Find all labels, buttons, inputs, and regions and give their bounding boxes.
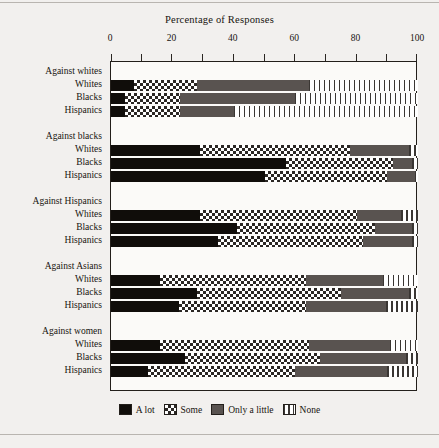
bar-segment-none bbox=[401, 210, 418, 221]
bar-segment-little bbox=[306, 301, 386, 312]
legend-item: Only a little bbox=[211, 404, 273, 415]
bar-segment-some bbox=[125, 106, 180, 117]
bars-container bbox=[111, 62, 416, 390]
stacked-bar bbox=[111, 288, 418, 299]
y-axis-row-label: Whites bbox=[75, 144, 102, 155]
bar-segment-alot bbox=[111, 93, 125, 104]
bar-segment-alot bbox=[111, 275, 160, 286]
bar-segment-alot bbox=[111, 288, 197, 299]
x-tick-label: 100 bbox=[410, 33, 424, 43]
y-axis-group-label: Against whites bbox=[45, 66, 102, 77]
bar-segment-none bbox=[386, 301, 418, 312]
y-axis-row-label: Blacks bbox=[76, 157, 102, 168]
bar-segment-little bbox=[341, 288, 409, 299]
bar-segment-alot bbox=[111, 158, 286, 169]
stacked-bar bbox=[111, 366, 418, 377]
bar-segment-some bbox=[286, 158, 393, 169]
bar-segment-little bbox=[387, 171, 415, 182]
legend-swatch-little bbox=[211, 404, 224, 415]
bar-segment-none bbox=[409, 145, 418, 156]
bar-segment-alot bbox=[111, 80, 134, 91]
x-axis-tick-labels: 020406080100 bbox=[0, 33, 439, 46]
y-axis-row-label: Hispanics bbox=[65, 300, 102, 311]
stacked-bar bbox=[111, 106, 418, 117]
bar-segment-some bbox=[237, 223, 375, 234]
stacked-bar bbox=[111, 236, 418, 247]
bar-segment-some bbox=[125, 93, 180, 104]
bar-segment-little bbox=[375, 223, 412, 234]
chart-legend: A lotSomeOnly a littleNone bbox=[0, 404, 439, 415]
y-axis-group-label: Against Asians bbox=[45, 261, 102, 272]
y-axis-row-label: Whites bbox=[75, 339, 102, 350]
stacked-bar bbox=[111, 353, 418, 364]
bar-segment-none bbox=[412, 236, 418, 247]
stacked-bar bbox=[111, 93, 418, 104]
bar-segment-alot bbox=[111, 106, 125, 117]
x-tick-label: 0 bbox=[108, 33, 113, 43]
x-tick-label: 60 bbox=[289, 33, 299, 43]
top-divider-rule bbox=[0, 2, 439, 3]
bar-segment-none bbox=[295, 93, 418, 104]
bar-segment-none bbox=[309, 80, 418, 91]
bar-segment-alot bbox=[111, 223, 237, 234]
y-axis-group-label: Against Hispanics bbox=[33, 196, 102, 207]
bar-segment-little bbox=[295, 366, 387, 377]
y-axis-row-label: Blacks bbox=[76, 92, 102, 103]
stacked-bar bbox=[111, 223, 418, 234]
bar-segment-none bbox=[412, 223, 418, 234]
bar-segment-little bbox=[197, 80, 309, 91]
bar-segment-alot bbox=[111, 171, 265, 182]
stacked-bar bbox=[111, 275, 418, 286]
y-axis-labels: Against whitesWhitesBlacksHispanicsAgain… bbox=[0, 61, 107, 391]
y-axis-group-label: Against women bbox=[42, 326, 102, 337]
stacked-bar bbox=[111, 340, 418, 351]
x-tick-label: 20 bbox=[167, 33, 177, 43]
bar-segment-alot bbox=[111, 236, 218, 247]
stacked-bar bbox=[111, 301, 418, 312]
x-tick-label: 80 bbox=[351, 33, 361, 43]
bar-segment-little bbox=[357, 210, 402, 221]
bar-segment-none bbox=[409, 288, 418, 299]
bar-segment-none bbox=[387, 366, 418, 377]
y-axis-row-label: Hispanics bbox=[65, 105, 102, 116]
y-axis-row-label: Whites bbox=[75, 274, 102, 285]
y-axis-row-label: Blacks bbox=[76, 222, 102, 233]
bar-segment-some bbox=[265, 171, 388, 182]
bar-segment-none bbox=[415, 171, 418, 182]
bar-segment-some bbox=[148, 366, 295, 377]
plot-area bbox=[110, 61, 417, 391]
bar-segment-alot bbox=[111, 145, 200, 156]
y-axis-group-label: Against blacks bbox=[46, 131, 102, 142]
legend-label: None bbox=[300, 405, 321, 415]
bar-segment-some bbox=[218, 236, 362, 247]
legend-label: Some bbox=[181, 405, 203, 415]
x-tick-label: 40 bbox=[228, 33, 238, 43]
bar-segment-little bbox=[350, 145, 408, 156]
bar-segment-little bbox=[309, 340, 390, 351]
y-axis-row-label: Blacks bbox=[76, 352, 102, 363]
bottom-divider-rule bbox=[0, 434, 439, 435]
y-axis-row-label: Whites bbox=[75, 79, 102, 90]
legend-item: A lot bbox=[119, 404, 155, 415]
bar-segment-alot bbox=[111, 340, 160, 351]
bar-segment-none bbox=[383, 275, 418, 286]
legend-label: Only a little bbox=[228, 405, 273, 415]
legend-swatch-alot bbox=[119, 404, 132, 415]
legend-item: Some bbox=[164, 404, 203, 415]
y-axis-row-label: Hispanics bbox=[65, 170, 102, 181]
bar-segment-alot bbox=[111, 301, 179, 312]
bar-segment-some bbox=[200, 145, 350, 156]
y-axis-row-label: Whites bbox=[75, 209, 102, 220]
bar-segment-alot bbox=[111, 210, 200, 221]
legend-item: None bbox=[283, 404, 321, 415]
bar-segment-little bbox=[306, 275, 383, 286]
bar-segment-some bbox=[185, 353, 320, 364]
bar-segment-little bbox=[320, 353, 406, 364]
stacked-bar bbox=[111, 145, 418, 156]
stacked-bar bbox=[111, 158, 418, 169]
bar-segment-some bbox=[179, 301, 306, 312]
bar-segment-little bbox=[180, 106, 234, 117]
bar-segment-some bbox=[160, 340, 309, 351]
bar-segment-some bbox=[134, 80, 197, 91]
legend-swatch-some bbox=[164, 404, 177, 415]
